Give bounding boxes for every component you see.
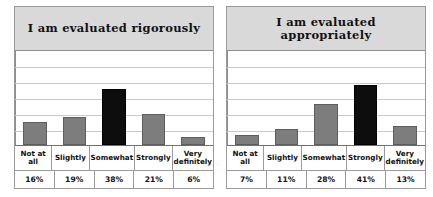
bar-cell	[15, 51, 55, 145]
bar-cell	[267, 51, 307, 145]
bar-cell	[346, 51, 386, 145]
category-label: Slightly	[264, 146, 301, 170]
value-label: 28%	[307, 171, 347, 188]
category-label-text: definitely	[174, 158, 212, 166]
category-label: Strongly	[347, 146, 385, 170]
chart-title-band: I am evaluated appropriately	[227, 7, 425, 51]
chart-sheet: I am evaluated rigorously Not at all	[0, 0, 433, 197]
category-label: Not at all	[15, 146, 52, 170]
bar-cell	[227, 51, 267, 145]
category-label: Very definitely	[385, 146, 425, 170]
chart-title-line: appropriately	[276, 29, 376, 42]
chart-panel-rigorously: I am evaluated rigorously Not at all	[14, 6, 214, 189]
plot-area	[227, 51, 425, 146]
bar-cell	[306, 51, 346, 145]
bar-series	[15, 51, 213, 145]
bar-strongly	[354, 85, 378, 145]
category-label-row: Not at all Slightly Somewhat Strongly Ve…	[15, 146, 213, 171]
category-label-text: Strongly	[348, 154, 383, 162]
value-label: 21%	[134, 171, 174, 188]
category-label-text: Not at all	[16, 150, 50, 167]
value-label: 19%	[55, 171, 95, 188]
chart-title: I am evaluated appropriately	[276, 16, 376, 42]
bar-cell	[134, 51, 174, 145]
category-label: Somewhat	[302, 146, 348, 170]
category-label: Very definitely	[173, 146, 213, 170]
category-label-text: definitely	[386, 158, 424, 166]
category-label: Strongly	[135, 146, 173, 170]
bar-very-definitely	[393, 126, 417, 145]
bar-somewhat	[314, 104, 338, 145]
bar-series	[227, 51, 425, 145]
category-label: Slightly	[52, 146, 89, 170]
chart-panel-appropriately: I am evaluated appropriately Not a	[226, 6, 426, 189]
chart-title: I am evaluated rigorously	[28, 22, 201, 35]
bar-cell	[385, 51, 425, 145]
chart-title-line: I am evaluated	[276, 16, 376, 29]
value-label-row: 7% 11% 28% 41% 13%	[227, 171, 425, 188]
value-label: 16%	[15, 171, 55, 188]
bar-very-definitely	[181, 137, 205, 145]
value-label: 38%	[95, 171, 135, 188]
value-label: 13%	[386, 171, 425, 188]
bar-not-at-all	[23, 122, 47, 146]
category-label-text: Strongly	[136, 154, 171, 162]
chart-title-line: I am evaluated rigorously	[28, 22, 201, 35]
value-label-row: 16% 19% 38% 21% 6%	[15, 171, 213, 188]
category-label-text: Slightly	[55, 154, 86, 162]
value-label: 6%	[174, 171, 213, 188]
bar-cell	[55, 51, 95, 145]
category-label-text: Somewhat	[91, 154, 134, 162]
value-label: 11%	[267, 171, 307, 188]
bar-cell	[94, 51, 134, 145]
category-label: Not at all	[227, 146, 264, 170]
category-label-row: Not at all Slightly Somewhat Strongly Ve…	[227, 146, 425, 171]
bar-slightly	[63, 117, 87, 145]
value-label: 7%	[227, 171, 267, 188]
plot-area	[15, 51, 213, 146]
category-label: Somewhat	[90, 146, 136, 170]
category-label-text: Not at all	[228, 150, 262, 167]
category-label-text: Slightly	[267, 154, 298, 162]
bar-not-at-all	[235, 135, 259, 145]
bar-cell	[173, 51, 213, 145]
bar-slightly	[275, 129, 299, 145]
chart-title-band: I am evaluated rigorously	[15, 7, 213, 51]
bar-strongly	[142, 114, 166, 145]
value-label: 41%	[346, 171, 386, 188]
bar-somewhat	[102, 89, 126, 145]
category-label-text: Somewhat	[303, 154, 346, 162]
